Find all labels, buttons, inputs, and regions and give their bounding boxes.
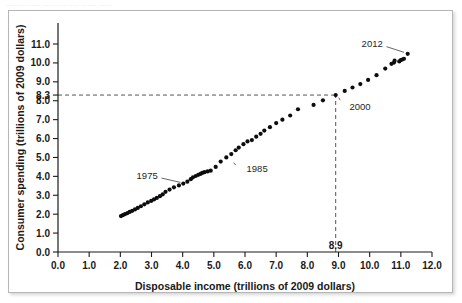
- data-point: [245, 139, 249, 143]
- callout-group: 8.38.9: [36, 90, 343, 251]
- data-point: [366, 78, 370, 82]
- x-callout-value: 8.9: [329, 240, 343, 251]
- data-point: [163, 190, 167, 194]
- data-point: [254, 135, 258, 139]
- data-point: [262, 129, 266, 133]
- y-tick-label: 9.0: [36, 76, 50, 87]
- data-point: [181, 181, 185, 185]
- y-tick-label: 6.0: [36, 133, 50, 144]
- y-tick-label: 7.0: [36, 114, 50, 125]
- data-point: [288, 113, 292, 117]
- data-point: [241, 142, 245, 146]
- year-annotation-label: 1985: [247, 163, 268, 174]
- data-point: [237, 146, 241, 150]
- scatter-chart: 0.01.02.03.04.05.06.07.08.09.010.011.012…: [0, 0, 462, 303]
- data-point: [374, 73, 378, 77]
- data-point: [172, 185, 176, 189]
- y-tick-label: 0.0: [36, 247, 50, 258]
- data-point: [167, 188, 171, 192]
- data-point: [185, 180, 189, 184]
- y-callout-value: 8.3: [36, 90, 50, 101]
- x-tick-group: 0.01.02.03.04.05.06.07.08.09.010.011.012…: [51, 252, 442, 271]
- data-point: [343, 89, 347, 93]
- annotation-leader-line: [162, 178, 181, 182]
- data-point: [219, 160, 223, 164]
- data-point: [350, 85, 354, 89]
- y-tick-label: 3.0: [36, 190, 50, 201]
- x-tick-label: 8.0: [300, 260, 314, 271]
- y-tick-label: 11.0: [31, 39, 50, 50]
- x-tick-label: 9.0: [332, 260, 346, 271]
- annotation-leader-line: [386, 47, 404, 53]
- x-tick-label: 7.0: [269, 260, 283, 271]
- x-tick-label: 5.0: [207, 260, 221, 271]
- annotation-leader-line: [234, 163, 236, 166]
- data-point: [334, 93, 338, 97]
- data-point: [224, 155, 228, 159]
- x-tick-label: 10.0: [360, 260, 380, 271]
- data-point: [402, 57, 406, 61]
- data-point: [321, 98, 325, 102]
- y-tick-label: 1.0: [36, 228, 50, 239]
- data-point: [209, 169, 213, 173]
- x-axis-title: Disposable income (trillions of 2009 dol…: [135, 280, 355, 292]
- annotations-group: 1975198520002012: [137, 38, 404, 182]
- data-point: [274, 121, 278, 125]
- data-point: [268, 125, 272, 129]
- year-annotation-label: 1975: [137, 170, 158, 181]
- x-tick-label: 6.0: [238, 260, 252, 271]
- data-point: [383, 66, 387, 70]
- data-points-group: [119, 52, 410, 218]
- x-tick-label: 0.0: [51, 260, 65, 271]
- data-point: [250, 138, 254, 142]
- year-annotation-label: 2012: [362, 38, 383, 49]
- y-tick-group: 0.01.02.03.04.05.06.07.08.09.010.011.0: [31, 39, 58, 258]
- x-tick-label: 4.0: [176, 260, 190, 271]
- axes-group: [58, 23, 432, 252]
- x-tick-label: 2.0: [113, 260, 127, 271]
- data-point: [393, 59, 397, 63]
- x-tick-label: 1.0: [82, 260, 96, 271]
- data-point: [258, 132, 262, 136]
- y-tick-label: 5.0: [36, 152, 50, 163]
- data-point: [177, 183, 181, 187]
- y-tick-label: 4.0: [36, 171, 50, 182]
- x-tick-label: 3.0: [145, 260, 159, 271]
- y-axis-title: Consumer spending (trillions of 2009 dol…: [14, 25, 26, 251]
- data-point: [311, 103, 315, 107]
- x-tick-label: 11.0: [391, 260, 410, 271]
- figure-root: ........ ....... .... .. ... ..... .....…: [0, 0, 462, 303]
- data-point: [280, 118, 284, 122]
- data-point: [214, 165, 218, 169]
- x-tick-label: 12.0: [422, 260, 442, 271]
- year-annotation-label: 2000: [349, 101, 370, 112]
- y-tick-label: 2.0: [36, 209, 50, 220]
- data-point: [229, 152, 233, 156]
- y-tick-label: 10.0: [31, 57, 51, 68]
- annotation-leader-line: [339, 98, 340, 101]
- data-point: [406, 52, 410, 56]
- data-point: [296, 107, 300, 111]
- data-point: [358, 82, 362, 86]
